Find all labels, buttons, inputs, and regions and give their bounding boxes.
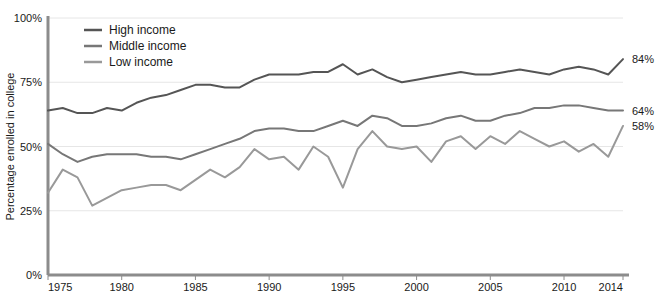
x-axis-tick-label: 1990 (257, 281, 281, 293)
x-axis-tick-label: 2000 (404, 281, 428, 293)
series-end-label-middle-income: 64% (632, 105, 654, 117)
legend-label-middle-income[interactable]: Middle income (109, 39, 187, 53)
chart-canvas: 0%25%50%75%100%1975198019851990199520002… (0, 0, 662, 297)
series-line-low-income (48, 126, 623, 206)
y-axis-tick-label: 100% (14, 12, 42, 24)
series-end-label-high-income: 84% (632, 53, 654, 65)
y-axis-title: Percentage enrolled in college (4, 73, 16, 221)
y-axis-tick-label: 75% (20, 76, 42, 88)
legend-label-low-income[interactable]: Low income (109, 55, 173, 69)
legend-label-high-income[interactable]: High income (109, 23, 176, 37)
x-axis-tick-label: 2014 (599, 281, 623, 293)
x-axis-tick-label: 1985 (183, 281, 207, 293)
x-axis-tick-label: 1975 (48, 281, 72, 293)
line-chart: 0%25%50%75%100%1975198019851990199520002… (0, 0, 662, 297)
series-end-label-low-income: 58% (632, 120, 654, 132)
x-axis-tick-label: 1995 (331, 281, 355, 293)
x-axis-tick-label: 2005 (478, 281, 502, 293)
series-line-middle-income (48, 105, 623, 162)
x-axis-tick-label: 1980 (109, 281, 133, 293)
y-axis-tick-label: 25% (20, 205, 42, 217)
x-axis-tick-label: 2010 (552, 281, 576, 293)
y-axis-tick-label: 50% (20, 141, 42, 153)
y-axis-tick-label: 0% (26, 269, 42, 281)
